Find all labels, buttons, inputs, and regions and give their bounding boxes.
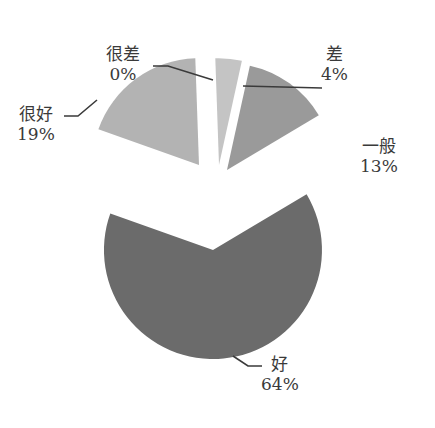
label-bad-name: 差 [321, 44, 348, 64]
label-very-good: 很好 19% [17, 104, 55, 144]
label-very-bad: 很差 0% [106, 44, 140, 84]
label-good-name: 好 [261, 354, 299, 374]
label-very-bad-name: 很差 [106, 44, 140, 64]
slice-average [227, 66, 319, 170]
leader-very-good [64, 100, 97, 116]
pie-chart [0, 0, 435, 428]
label-very-good-pct: 19% [17, 124, 55, 144]
label-good: 好 64% [261, 354, 299, 394]
label-average-pct: 13% [360, 156, 398, 176]
label-good-pct: 64% [261, 374, 299, 394]
label-average: 一般 13% [360, 136, 398, 176]
slice-good [104, 194, 322, 359]
label-bad: 差 4% [321, 44, 348, 84]
label-very-good-name: 很好 [17, 104, 55, 124]
label-average-name: 一般 [360, 136, 398, 156]
label-bad-pct: 4% [321, 64, 348, 84]
label-very-bad-pct: 0% [106, 64, 140, 84]
leader-good [233, 356, 262, 366]
